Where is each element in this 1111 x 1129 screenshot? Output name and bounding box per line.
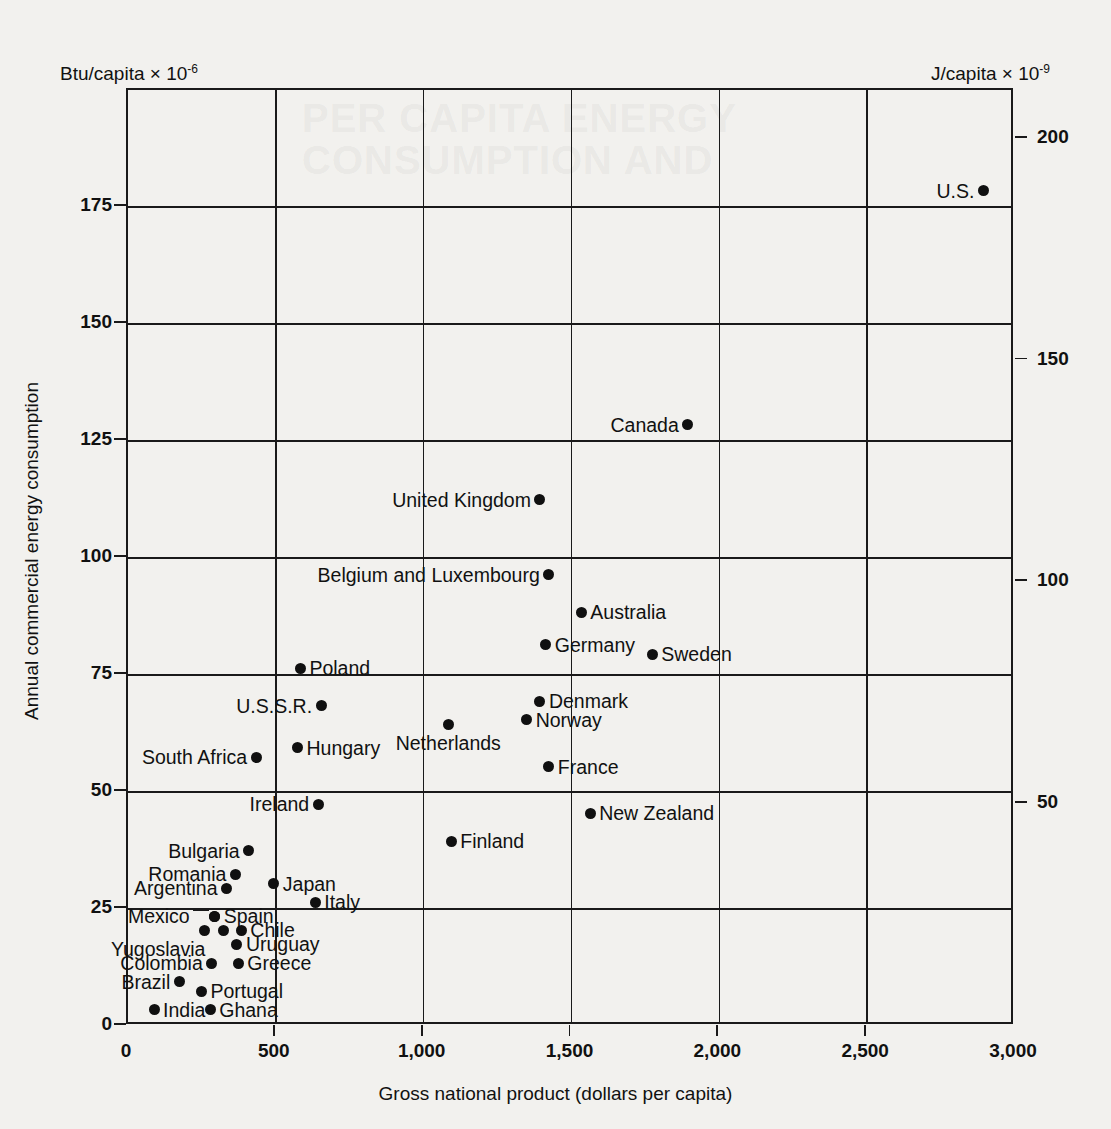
y-axis-tick-label-right: 100 xyxy=(1037,569,1069,591)
gridline-horizontal xyxy=(128,206,1011,208)
scatter-point xyxy=(647,649,658,660)
scatter-point-label: New Zealand xyxy=(599,802,714,825)
y-axis-tick-mark-left xyxy=(114,321,126,323)
scatter-point-label: Bulgaria xyxy=(168,839,240,862)
scatter-point-label: Sweden xyxy=(661,643,731,666)
scatter-point xyxy=(443,719,454,730)
scatter-point-label: Belgium and Luxembourg xyxy=(318,563,540,586)
scatter-point-label: Finland xyxy=(460,830,524,853)
gridline-horizontal xyxy=(128,440,1011,442)
x-axis-tick-mark xyxy=(273,1025,275,1036)
right-axis-unit-text: J/capita × 10 xyxy=(931,63,1039,84)
y-axis-tick-mark-left xyxy=(114,1023,126,1025)
y-axis-tick-label-left: 50 xyxy=(50,779,112,801)
x-axis-tick-mark xyxy=(716,1025,718,1036)
scatter-point xyxy=(576,607,587,618)
scatter-point xyxy=(221,883,232,894)
scatter-point xyxy=(209,911,220,922)
y-axis-tick-label-left: 75 xyxy=(50,662,112,684)
gridline-vertical xyxy=(423,90,425,1022)
y-axis-tick-mark-left xyxy=(114,204,126,206)
y-axis-tick-label-left: 125 xyxy=(50,428,112,450)
scatter-point xyxy=(316,700,327,711)
gridline-vertical xyxy=(719,90,721,1022)
energy-gnp-scatter-figure: PER CAPITA ENERGY CONSUMPTION AND Btu/ca… xyxy=(0,0,1111,1129)
y-axis-tick-label-left: 100 xyxy=(50,545,112,567)
y-axis-tick-label-left: 150 xyxy=(50,311,112,333)
y-axis-tick-mark-right xyxy=(1015,358,1027,360)
scatter-point-label: Ireland xyxy=(250,793,310,816)
scatter-point-label: Poland xyxy=(309,657,370,680)
scatter-point-label: Brazil xyxy=(121,970,170,993)
left-axis-unit-text: Btu/capita × 10 xyxy=(60,63,187,84)
gridline-vertical xyxy=(571,90,573,1022)
scatter-point xyxy=(313,799,324,810)
x-axis-tick-label: 1,000 xyxy=(398,1040,446,1062)
scatter-point-label: India xyxy=(163,998,205,1021)
x-axis-tick-label: 2,500 xyxy=(841,1040,889,1062)
y-axis-tick-mark-right xyxy=(1015,579,1027,581)
y-axis-title: Annual commercial energy consumption xyxy=(21,291,43,811)
x-axis-tick-mark xyxy=(421,1025,423,1036)
x-axis-tick-label: 1,500 xyxy=(546,1040,594,1062)
x-axis-tick-mark xyxy=(864,1025,866,1036)
scatter-point-label: Argentina xyxy=(134,877,217,900)
scatter-point xyxy=(196,986,207,997)
y-axis-tick-label-right: 50 xyxy=(1037,791,1058,813)
scatter-point xyxy=(199,925,210,936)
x-axis-tick-mark xyxy=(569,1025,571,1036)
gridline-horizontal xyxy=(128,323,1011,325)
scatter-point xyxy=(585,808,596,819)
plot-area xyxy=(126,88,1013,1024)
scatter-point-label: Australia xyxy=(590,601,666,624)
scatter-point-label: Canada xyxy=(610,413,678,436)
scatter-point xyxy=(206,958,217,969)
label-leader-dash xyxy=(193,909,209,911)
y-axis-tick-mark-left xyxy=(114,438,126,440)
x-axis-tick-label: 2,000 xyxy=(694,1040,742,1062)
scatter-point xyxy=(230,869,241,880)
scatter-point-label: Ghana xyxy=(219,998,278,1021)
y-axis-tick-label-left: 25 xyxy=(50,896,112,918)
y-axis-tick-mark-right xyxy=(1015,136,1027,138)
scatter-point xyxy=(310,897,321,908)
scatter-point-label: Germany xyxy=(555,633,635,656)
y-axis-tick-label-right: 200 xyxy=(1037,126,1069,148)
x-axis-title: Gross national product (dollars per capi… xyxy=(0,1083,1111,1105)
scatter-point-label: United Kingdom xyxy=(392,488,531,511)
scatter-point-label: Netherlands xyxy=(396,732,501,755)
x-axis-tick-label: 500 xyxy=(258,1040,290,1062)
scatter-point-label: France xyxy=(558,755,619,778)
right-axis-unit-exponent: -9 xyxy=(1039,62,1050,76)
scatter-point xyxy=(446,836,457,847)
gridline-vertical xyxy=(866,90,868,1022)
scatter-point xyxy=(218,925,229,936)
y-axis-tick-mark-left xyxy=(114,555,126,557)
gridline-horizontal xyxy=(128,557,1011,559)
x-axis-tick-label: 0 xyxy=(121,1040,132,1062)
scatter-point xyxy=(534,696,545,707)
left-axis-unit-label: Btu/capita × 10-6 xyxy=(60,62,198,85)
right-axis-unit-label: J/capita × 10-9 xyxy=(931,62,1050,85)
scatter-point xyxy=(233,958,244,969)
gridline-horizontal xyxy=(128,674,1011,676)
scatter-point-label: Mexico xyxy=(128,905,190,928)
y-axis-tick-label-left: 0 xyxy=(50,1013,112,1035)
y-axis-tick-mark-left xyxy=(114,906,126,908)
y-axis-tick-label-right: 150 xyxy=(1037,348,1069,370)
scatter-point-label: South Africa xyxy=(142,746,247,769)
y-axis-tick-mark-left xyxy=(114,789,126,791)
scatter-point xyxy=(251,752,262,763)
scatter-point-label: Norway xyxy=(536,708,602,731)
scatter-point xyxy=(149,1004,160,1015)
y-axis-tick-mark-left xyxy=(114,672,126,674)
left-axis-unit-exponent: -6 xyxy=(187,62,198,76)
scatter-point-label: U.S.S.R. xyxy=(236,694,312,717)
y-axis-tick-label-left: 175 xyxy=(50,194,112,216)
scatter-point xyxy=(295,663,306,674)
scatter-point-label: Italy xyxy=(324,891,360,914)
scatter-point-label: U.S. xyxy=(936,179,974,202)
scatter-point-label: Hungary xyxy=(306,736,380,759)
scatter-point-label: Greece xyxy=(247,952,311,975)
x-axis-tick-label: 3,000 xyxy=(989,1040,1037,1062)
